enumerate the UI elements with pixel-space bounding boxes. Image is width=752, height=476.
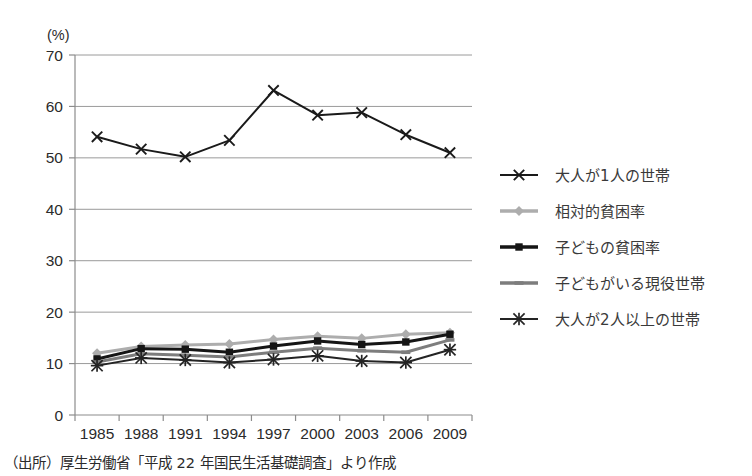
legend-label: 大人が1人の世帯 <box>555 167 670 185</box>
poverty-rate-line-chart: 010203040506070 198519881991199419972000… <box>0 0 752 476</box>
series-marker-square <box>270 342 277 349</box>
y-tick-label: 10 <box>46 355 64 372</box>
y-tick-label: 60 <box>46 98 64 115</box>
legend-item-1[interactable]: 相対的貧困率 <box>500 203 645 221</box>
x-tick-label: 2009 <box>433 425 467 442</box>
series-marker-star <box>223 356 235 368</box>
y-tick-label: 0 <box>54 407 63 424</box>
legend-label: 相対的貧困率 <box>555 203 645 221</box>
x-tick-label: 1994 <box>212 425 247 442</box>
x-tick-label: 2006 <box>389 425 423 442</box>
legend-item-2[interactable]: 子どもの貧困率 <box>500 239 660 257</box>
x-tick-labels: 198519881991199419972000200320062009 <box>80 425 467 442</box>
series-marker-square <box>446 331 453 338</box>
series-marker-diamond <box>401 329 411 339</box>
series-marker-square <box>515 243 522 250</box>
y-tick-label: 70 <box>46 47 64 64</box>
series-marker-dash <box>401 350 410 354</box>
y-tick-label: 20 <box>46 304 64 321</box>
legend-label: 子どもがいる現役世帯 <box>555 275 705 293</box>
y-tick-label: 40 <box>46 201 64 218</box>
source-caption: （出所）厚生労働省「平成 22 年国民生活基礎調査」より作成 <box>4 451 396 472</box>
chart-legend: 大人が1人の世帯相対的貧困率子どもの貧困率子どもがいる現役世帯大人が2人以上の世… <box>500 167 705 329</box>
series-marker-x <box>224 135 234 145</box>
x-tick-label: 2003 <box>344 425 378 442</box>
series-layer <box>91 85 456 372</box>
series-marker-star <box>179 354 191 366</box>
series-line <box>97 90 450 156</box>
x-tick-label: 1991 <box>168 425 202 442</box>
series-marker-square <box>402 338 409 345</box>
series-marker-square <box>137 345 144 352</box>
series-marker-star <box>513 313 525 325</box>
series-marker-x <box>445 148 455 158</box>
series-marker-star <box>444 343 456 355</box>
series-marker-x <box>268 85 278 95</box>
series-marker-star <box>91 359 103 371</box>
series-marker-square <box>182 345 189 352</box>
series-marker-dash <box>357 349 366 353</box>
series-marker-diamond <box>514 206 524 216</box>
x-tick-label: 1988 <box>124 425 158 442</box>
x-tick-label: 1997 <box>256 425 290 442</box>
y-tick-label: 30 <box>46 252 64 269</box>
series-marker-diamond <box>224 339 234 349</box>
series-marker-dash <box>445 338 454 342</box>
series-marker-square <box>226 349 233 356</box>
y-axis-unit-label: (%) <box>47 27 70 43</box>
series-marker-star <box>267 353 279 365</box>
legend-label: 大人が2人以上の世帯 <box>555 311 700 329</box>
x-tick-label: 2000 <box>300 425 335 442</box>
y-tick-label: 50 <box>46 149 64 166</box>
series-0 <box>92 85 455 162</box>
legend-label: 子どもの貧困率 <box>555 239 660 257</box>
series-marker-star <box>135 352 147 364</box>
legend-item-4[interactable]: 大人が2人以上の世帯 <box>500 311 700 329</box>
chart-canvas: 010203040506070 198519881991199419972000… <box>0 0 752 476</box>
series-marker-square <box>358 341 365 348</box>
legend-item-0[interactable]: 大人が1人の世帯 <box>500 167 670 185</box>
x-tick-marks <box>75 415 472 421</box>
series-marker-x <box>401 130 411 140</box>
series-marker-dash <box>515 281 524 285</box>
series-marker-star <box>400 356 412 368</box>
gridlines-group <box>75 55 472 364</box>
y-tick-marks <box>69 55 75 415</box>
series-marker-dash <box>313 346 322 350</box>
series-marker-star <box>311 350 323 362</box>
y-tick-labels: 010203040506070 <box>46 47 64 424</box>
x-tick-label: 1985 <box>80 425 114 442</box>
series-marker-square <box>314 337 321 344</box>
legend-item-3[interactable]: 子どもがいる現役世帯 <box>500 275 705 293</box>
series-marker-star <box>356 355 368 367</box>
